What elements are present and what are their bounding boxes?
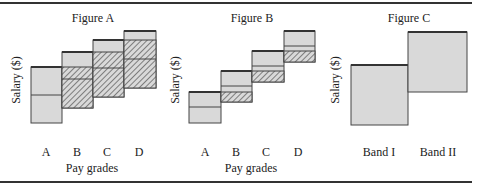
grade-a-range <box>189 92 221 123</box>
figure-b-plot <box>189 31 315 123</box>
figure-a-category-d: D <box>135 145 144 160</box>
grade-b-range <box>62 52 93 108</box>
figure-b-category-d: D <box>294 145 303 160</box>
figure-a-xlabel: Pay grades <box>66 161 118 176</box>
grade-c-range <box>93 40 124 97</box>
figure-c-category-band-i: Band I <box>363 145 395 160</box>
figure-b-category-c: C <box>262 145 270 160</box>
band-i-range <box>351 65 408 125</box>
grade-d-range <box>284 31 315 62</box>
figure-a-category-a: A <box>42 145 51 160</box>
figure-a-category-c: C <box>103 145 111 160</box>
grade-b-range <box>221 71 252 102</box>
grade-d-range <box>124 31 156 88</box>
figure-a-plot <box>31 31 156 123</box>
figure-b-category-b: B <box>232 145 240 160</box>
figure-c-category-band-ii: Band II <box>420 145 456 160</box>
grade-c-range <box>252 51 284 82</box>
figure-b-xlabel: Pay grades <box>225 161 277 176</box>
figure-b-category-a: A <box>201 145 210 160</box>
figure-c-plot <box>351 32 467 125</box>
grade-a-range <box>31 67 62 123</box>
band-ii-range <box>408 32 467 92</box>
figure-a-category-b: B <box>73 145 81 160</box>
